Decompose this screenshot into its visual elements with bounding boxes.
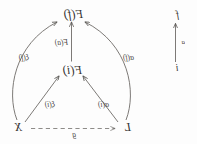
edge-label-xi-i: ξ(i)	[45, 101, 55, 109]
figure-canvas: f i a F(f) F(i) L X α(f) ξ(f) α(i) ξ(i) …	[0, 0, 197, 144]
mini-arrow-label: a	[182, 39, 186, 46]
node-bottom-left-L: L	[124, 121, 131, 133]
edge-label-F-a: F(a)	[55, 39, 68, 47]
edge-label-alpha-f: α(f)	[123, 54, 134, 62]
node-top-Ff: F(f)	[64, 8, 83, 20]
node-middle-Fi: F(i)	[63, 64, 82, 76]
node-bottom-right-X: X	[14, 121, 22, 133]
diagram-strokes	[0, 0, 197, 144]
edge-X-to-Fi	[25, 76, 59, 122]
edge-label-xi-f: ξ(f)	[19, 54, 29, 62]
edge-label-g: g	[72, 131, 76, 139]
mini-target-label: f	[176, 10, 179, 20]
mirrored-figure-group: f i a F(f) F(i) L X α(f) ξ(f) α(i) ξ(i) …	[0, 0, 197, 144]
edge-L-to-Fi	[83, 76, 118, 122]
edge-label-alpha-i: α(i)	[98, 101, 109, 109]
mini-source-label: i	[176, 63, 179, 73]
